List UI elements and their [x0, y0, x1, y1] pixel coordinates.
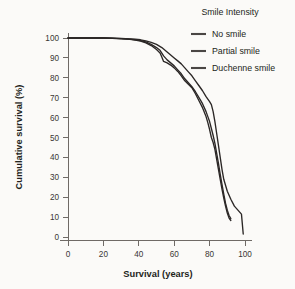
- x-axis-ticks: [68, 240, 245, 246]
- y-tick-label: 40: [50, 153, 60, 162]
- y-axis-tick-labels: 0102030405060708090100: [45, 34, 59, 242]
- x-tick-label: 40: [134, 250, 144, 259]
- y-tick-label: 90: [50, 54, 60, 63]
- legend-item[interactable]: No smile: [191, 29, 246, 39]
- x-tick-label: 0: [66, 250, 71, 259]
- y-tick-label: 10: [50, 213, 60, 222]
- x-tick-label: 20: [99, 250, 109, 259]
- x-axis-tick-labels: 020406080100: [66, 250, 253, 259]
- y-tick-label: 30: [50, 173, 60, 182]
- y-tick-label: 60: [50, 114, 60, 123]
- y-tick-label: 20: [50, 193, 60, 202]
- legend-item-label: No smile: [212, 29, 246, 39]
- survival-curve: [68, 38, 231, 220]
- x-axis-title: Survival (years): [123, 269, 192, 279]
- legend-item-label: Partial smile: [212, 46, 260, 56]
- y-tick-label: 70: [50, 94, 60, 103]
- y-tick-label: 0: [54, 233, 59, 242]
- y-axis-title: Cumulative survival (%): [14, 85, 24, 190]
- y-tick-label: 80: [50, 74, 60, 83]
- legend-items: No smilePartial smileDuchenne smile: [191, 29, 275, 73]
- x-tick-label: 80: [205, 250, 215, 259]
- legend-item[interactable]: Duchenne smile: [191, 63, 275, 73]
- y-axis-ticks: [63, 38, 68, 237]
- x-tick-label: 100: [238, 250, 252, 259]
- legend-title: Smile Intensity: [201, 7, 259, 17]
- legend-item[interactable]: Partial smile: [191, 46, 260, 56]
- survival-curve: [68, 38, 231, 219]
- y-tick-label: 100: [45, 34, 59, 43]
- survival-chart-figure: 0102030405060708090100 020406080100 Cumu…: [0, 0, 295, 289]
- x-tick-label: 60: [170, 250, 180, 259]
- legend: Smile Intensity No smilePartial smileDuc…: [191, 7, 275, 73]
- y-tick-label: 50: [50, 134, 60, 143]
- legend-item-label: Duchenne smile: [212, 63, 275, 73]
- chart-canvas: 0102030405060708090100 020406080100 Cumu…: [0, 0, 295, 289]
